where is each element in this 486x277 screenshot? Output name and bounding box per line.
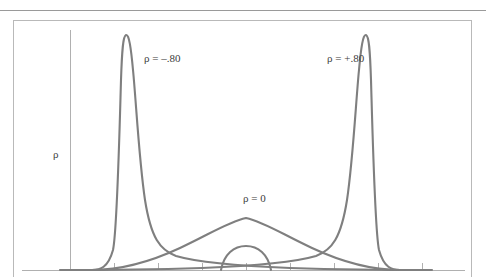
- curve-rho-zero: [92, 218, 400, 270]
- label-rho-negative: ρ = –.80: [144, 52, 180, 64]
- curves-group: [60, 35, 432, 270]
- curve-rho-negative-0-80: [92, 35, 432, 270]
- curve-rho-positive-0-80: [60, 35, 400, 270]
- plot-canvas: [0, 0, 486, 277]
- figure-page: ρ = –.80 ρ = +.80 ρ = 0 ρ: [0, 0, 486, 277]
- label-rho-zero: ρ = 0: [243, 192, 266, 204]
- label-y-axis: ρ: [53, 148, 59, 160]
- label-rho-positive: ρ = +.80: [327, 52, 364, 64]
- axes-group: [22, 30, 465, 271]
